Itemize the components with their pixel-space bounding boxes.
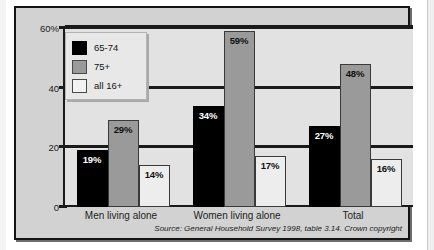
legend-item-65-74: 65-74 (72, 38, 146, 57)
page-left-margin (0, 0, 6, 250)
legend-swatch-all-16-plus (72, 79, 87, 93)
legend-label-65-74: 65-74 (94, 42, 118, 54)
y-tick-mark-60 (59, 26, 67, 29)
bar: 29% (108, 120, 139, 207)
scanned-page: 60%40200 19%29%14%34%59%17%27%48%16% Men… (0, 0, 434, 250)
bar-value-label: 27% (310, 130, 339, 141)
chart-legend: 65-74 75+ all 16+ (65, 32, 147, 100)
legend-label-all-16-plus: all 16+ (94, 80, 122, 92)
bar-value-label: 17% (256, 160, 285, 171)
x-axis-category-label: Total (295, 209, 411, 223)
legend-swatch-75-plus (72, 60, 87, 74)
bar-value-label: 48% (341, 68, 370, 79)
x-axis-category-label: Men living alone (63, 209, 179, 223)
bar: 27% (309, 126, 340, 207)
bar: 16% (371, 159, 402, 207)
bar-value-label: 29% (109, 124, 138, 135)
y-axis-tick-label: 0 (19, 203, 59, 213)
y-axis-tick-label: 40 (19, 84, 59, 94)
bar-value-label: 34% (194, 110, 223, 121)
bar-value-label: 59% (225, 35, 254, 46)
y-axis-tick-label: 60% (19, 24, 59, 34)
legend-item-75-plus: 75+ (72, 57, 146, 76)
legend-item-all-16-plus: all 16+ (72, 76, 146, 95)
bar: 59% (224, 31, 255, 207)
bar: 19% (77, 150, 108, 207)
bar: 17% (255, 156, 286, 207)
bar: 48% (340, 64, 371, 207)
y-tick-mark-20 (59, 145, 67, 148)
legend-label-75-plus: 75+ (94, 61, 110, 73)
y-tick-mark-0 (59, 205, 67, 208)
figure-frame: 60%40200 19%29%14%34%59%17%27%48%16% Men… (14, 6, 410, 240)
bar-value-label: 19% (78, 154, 107, 165)
bar: 14% (139, 165, 170, 207)
x-axis-category-label: Women living alone (179, 209, 295, 223)
bar-value-label: 16% (372, 163, 401, 174)
legend-swatch-65-74 (72, 41, 87, 55)
page-right-margin (427, 0, 434, 250)
y-axis-tick-label: 20 (19, 143, 59, 153)
bar: 34% (193, 106, 224, 207)
x-axis-labels: Men living aloneWomen living aloneTotal (63, 209, 411, 225)
y-axis-labels: 60%40200 (16, 28, 59, 207)
gridline-60 (65, 25, 413, 29)
bar-value-label: 14% (140, 169, 169, 180)
source-note: Source: General Household Survey 1998, t… (154, 224, 402, 234)
